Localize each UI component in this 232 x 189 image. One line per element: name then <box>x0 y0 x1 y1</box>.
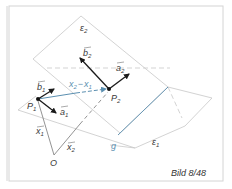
plane-epsilon-2 <box>33 16 170 135</box>
label-epsilon-2: ε2 <box>80 23 88 34</box>
label-x2: x2 <box>66 142 76 153</box>
point-p2 <box>107 87 111 91</box>
geometry-figure: ε2 ε1 b2 a2 b1 a1 x2−x1 P1 P2 x1 x2 O g … <box>0 0 232 189</box>
label-x1: x1 <box>35 126 44 137</box>
label-b1: b1 <box>37 82 45 93</box>
label-x2-minus-x1: x2−x1 <box>68 79 92 90</box>
label-p2: P2 <box>111 93 121 104</box>
label-g: g <box>111 141 116 151</box>
point-p1 <box>36 97 40 101</box>
label-a2: a2 <box>116 63 125 74</box>
label-a1: a1 <box>60 107 68 118</box>
label-epsilon-1: ε1 <box>152 137 159 148</box>
label-origin: O <box>50 158 57 168</box>
label-b2: b2 <box>83 48 92 59</box>
line-g <box>118 87 168 135</box>
position-vectors <box>38 92 108 155</box>
label-p1: P1 <box>27 101 36 112</box>
figure-caption: Bild 8/48 <box>171 168 206 178</box>
